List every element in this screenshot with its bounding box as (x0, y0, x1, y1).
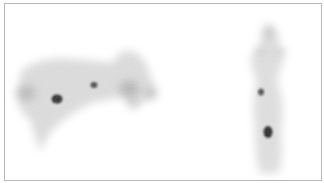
scintigraphy-scan (5, 4, 321, 180)
scan-image-frame (4, 3, 322, 181)
noise-overlay (5, 4, 321, 180)
